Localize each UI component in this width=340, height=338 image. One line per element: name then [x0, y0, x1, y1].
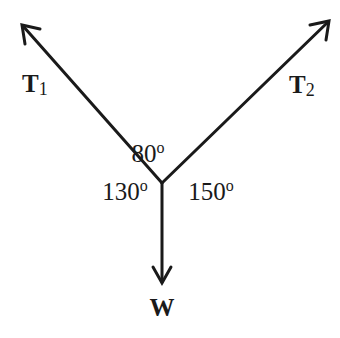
force-diagram: T1 T2 W 80o 130o 150o: [0, 0, 340, 338]
angle-t1-w: 130o: [102, 177, 148, 205]
angle-t2-w: 150o: [188, 177, 234, 205]
diagram-svg: T1 T2 W 80o 130o 150o: [0, 0, 340, 338]
label-w: W: [150, 294, 175, 321]
angle-t1-t2: 80o: [132, 139, 165, 167]
label-t2: T2: [289, 71, 315, 100]
label-t1: T1: [22, 70, 48, 99]
vector-w: [153, 183, 171, 283]
vector-t2: [162, 21, 329, 183]
